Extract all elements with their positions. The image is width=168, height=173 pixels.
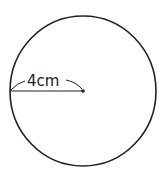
center-point: [81, 89, 85, 93]
label-bracket-left: [11, 81, 25, 90]
radius-label: 4cm: [27, 72, 59, 90]
circle-diagram-svg: 4cm: [0, 0, 168, 173]
label-bracket-right: [66, 80, 82, 89]
circle-diagram: 4cm: [0, 0, 168, 173]
